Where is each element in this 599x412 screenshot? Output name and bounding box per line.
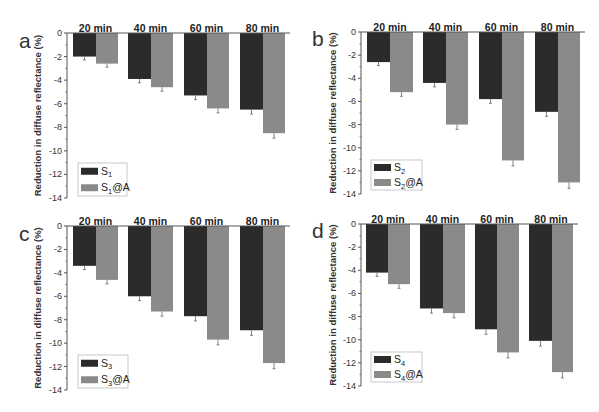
bar-S1-80min (240, 33, 263, 110)
bar-S3@A-40min (151, 226, 173, 312)
legend-swatch (81, 360, 98, 367)
bar-S2-20min (367, 32, 390, 62)
legend-swatch (374, 371, 391, 378)
y-tick-label: -12 (343, 358, 356, 368)
y-tick-label: -8 (348, 312, 356, 322)
bar-S3@A-20min (96, 226, 118, 280)
bar-S3@A-80min (263, 226, 285, 363)
y-tick-label: -4 (54, 268, 62, 278)
bar-S1@A-60min (207, 33, 229, 108)
figure-grid: 0-2-4-6-8-10-12-1420 min40 min60 min80 m… (0, 0, 599, 412)
category-label: 60 min (485, 21, 518, 33)
bar-S1@A-80min (263, 33, 285, 133)
bar-S3-60min (184, 226, 207, 316)
panel-letter: d (312, 219, 324, 242)
legend-swatch (374, 179, 391, 186)
y-tick-label: -10 (343, 335, 356, 345)
y-axis-label: Reduction in diffuse reflectance (%) (32, 227, 43, 389)
y-tick-label: -2 (348, 242, 356, 252)
bar-S4-80min (529, 224, 552, 341)
bar-S4@A-60min (497, 224, 519, 352)
bar-S2@A-20min (390, 32, 413, 92)
panel-letter: b (312, 27, 324, 50)
bar-S4@A-40min (443, 224, 465, 313)
legend: S2S2@A (371, 160, 423, 191)
legend: S1S1@A (78, 163, 130, 196)
y-axis-label: Reduction in diffuse reflectance (%) (327, 32, 338, 194)
legend-swatch (374, 356, 391, 363)
category-label: 60 min (480, 213, 513, 225)
bar-S1@A-20min (96, 33, 118, 64)
legend-swatch (81, 376, 98, 383)
bar-S2@A-60min (502, 32, 524, 160)
bar-S2@A-40min (446, 32, 468, 125)
legend-swatch (81, 184, 98, 191)
bar-S3-20min (73, 226, 96, 266)
category-label: 40 min (134, 215, 167, 227)
y-axis-label: Reduction in diffuse reflectance (%) (32, 35, 43, 197)
y-tick-label: -8 (348, 120, 356, 130)
y-tick-label: -4 (54, 75, 62, 85)
y-tick-label: -6 (54, 99, 62, 109)
bar-S4@A-80min (552, 224, 573, 372)
y-tick-label: -12 (343, 166, 356, 176)
bar-S2@A-80min (558, 32, 580, 182)
bar-S1-20min (73, 33, 96, 57)
y-tick-label: -2 (348, 50, 356, 60)
category-label: 40 min (134, 22, 167, 34)
bar-S3@A-60min (207, 226, 229, 340)
bar-S1-60min (184, 33, 207, 95)
y-tick-label: -10 (49, 146, 62, 156)
y-tick-label: -14 (343, 381, 356, 391)
bar-S4@A-20min (388, 224, 410, 284)
y-tick-label: 0 (351, 27, 356, 37)
category-label: 20 min (373, 21, 406, 33)
category-label: 80 min (534, 213, 567, 225)
y-tick-label: -6 (348, 288, 356, 298)
legend-swatch (374, 164, 391, 171)
panel-letter: c (19, 222, 30, 245)
y-tick-label: -12 (49, 169, 62, 179)
panel-letter: a (19, 29, 31, 52)
bar-S3-80min (240, 226, 263, 330)
y-tick-label: -2 (54, 244, 62, 254)
y-tick-label: -6 (54, 291, 62, 301)
bar-S1-40min (128, 33, 151, 79)
category-label: 80 min (541, 21, 574, 33)
category-label: 20 min (79, 215, 112, 227)
bar-S2-80min (535, 32, 558, 112)
y-tick-label: -4 (348, 265, 356, 275)
y-tick-label: -4 (348, 73, 356, 83)
y-tick-label: 0 (351, 219, 356, 229)
y-tick-label: -8 (54, 315, 62, 325)
category-label: 40 min (429, 21, 462, 33)
y-tick-label: 0 (57, 221, 62, 231)
bar-S4-20min (366, 224, 388, 273)
y-tick-label: -10 (49, 338, 62, 348)
y-tick-label: -6 (348, 96, 356, 106)
category-label: 20 min (371, 213, 404, 225)
y-tick-label: -2 (54, 52, 62, 62)
y-tick-label: -8 (54, 122, 62, 132)
bar-S4-40min (420, 224, 443, 308)
bar-S3-40min (128, 226, 151, 296)
category-label: 40 min (426, 213, 459, 225)
chart-canvas: 0-2-4-6-8-10-12-1420 min40 min60 min80 m… (0, 0, 599, 412)
category-label: 20 min (79, 22, 112, 34)
bar-S1@A-40min (151, 33, 173, 87)
bar-S4-60min (475, 224, 497, 329)
legend: S4S4@A (371, 352, 423, 383)
panel-a: 0-2-4-6-8-10-12-1420 min40 min60 min80 m… (19, 22, 290, 204)
y-tick-label: 0 (57, 28, 62, 38)
panel-d: 0-2-4-6-8-10-12-1420 min40 min60 min80 m… (312, 213, 578, 392)
panel-c: 0-2-4-6-8-10-12-1420 min40 min60 min80 m… (19, 215, 290, 396)
category-label: 80 min (246, 215, 279, 227)
category-label: 60 min (190, 22, 223, 34)
legend-swatch (81, 168, 98, 175)
bar-S2-60min (479, 32, 502, 99)
y-tick-label: -10 (343, 143, 356, 153)
panel-b: 0-2-4-6-8-10-12-1420 min40 min60 min80 m… (312, 21, 585, 200)
y-tick-label: -12 (49, 362, 62, 372)
bar-S2-40min (423, 32, 446, 83)
category-label: 60 min (190, 215, 223, 227)
